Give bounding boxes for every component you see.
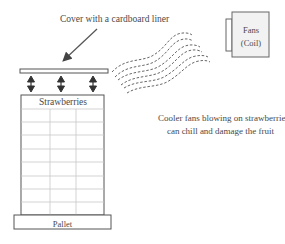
cardboard-liner — [20, 69, 108, 73]
fans-label-line1: Fans — [233, 24, 269, 37]
double-arrow-icons — [28, 76, 97, 92]
airflow-wave-icons — [112, 33, 210, 93]
pallet-label: Pallet — [14, 219, 111, 229]
warning-note: Cooler fans blowing on strawberries can … — [158, 112, 283, 138]
note-line2: can chill and damage the fruit — [158, 125, 283, 138]
strawberries-label: Strawberries — [22, 97, 104, 107]
strawberry-stack — [21, 95, 104, 215]
note-line1: Cooler fans blowing on strawberries — [158, 112, 283, 125]
fans-label-line2: (Coil) — [233, 37, 269, 50]
fans-label: Fans (Coil) — [233, 24, 269, 50]
cover-label: Cover with a cardboard liner — [60, 14, 169, 24]
pointer-arrow-icon — [64, 29, 97, 60]
